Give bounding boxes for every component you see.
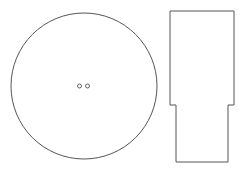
hole-right (86, 84, 90, 88)
disc-outline (11, 13, 157, 159)
stepped-profile (170, 11, 234, 162)
hole-left (78, 84, 82, 88)
technical-drawing (0, 0, 241, 173)
